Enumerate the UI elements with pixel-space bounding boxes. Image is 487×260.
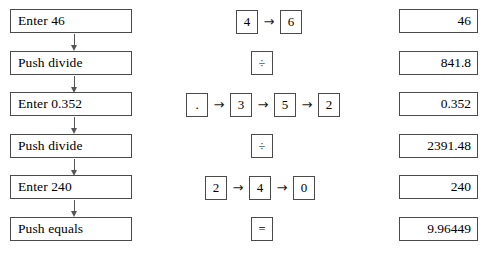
- action-label: Enter 240: [11, 180, 72, 194]
- digit-key-box: 3: [230, 93, 252, 117]
- display-box: 841.8: [399, 51, 478, 75]
- chain-arrow-right-icon: →: [258, 15, 280, 28]
- digit-key-box: 5: [274, 93, 296, 117]
- keystroke-chain: 4→6: [236, 9, 302, 34]
- flow-arrow-down-icon: [70, 159, 79, 176]
- display-box: 240: [399, 175, 478, 199]
- action-box: Push equals: [10, 217, 132, 241]
- digit-key-box: 4: [249, 176, 271, 200]
- flow-arrow-down-icon: [70, 117, 79, 134]
- keystroke-chain: =: [251, 217, 273, 242]
- chain-arrow-right-icon: →: [227, 181, 249, 194]
- display-box: 9.96449: [399, 217, 478, 241]
- keystroke-chain: 2→4→0: [205, 175, 315, 200]
- digit-key-box: 6: [280, 10, 302, 34]
- chain-arrow-right-icon: →: [252, 98, 274, 111]
- action-label: Enter 46: [11, 14, 65, 28]
- display-value: 9.96449: [427, 222, 477, 236]
- digit-key-box: 2: [318, 93, 340, 117]
- chain-arrow-right-icon: →: [208, 98, 230, 111]
- operator-key-box: =: [251, 217, 273, 241]
- digit-key-box: 2: [205, 176, 227, 200]
- operator-key-box: ÷: [251, 134, 273, 158]
- operator-key-box: ÷: [251, 51, 273, 75]
- keystroke-chain: ÷: [251, 134, 273, 159]
- display-value: 841.8: [441, 56, 477, 70]
- display-value: 2391.48: [427, 139, 477, 153]
- digit-key-box: .: [186, 93, 208, 117]
- display-box: 2391.48: [399, 134, 478, 158]
- calculator-sequence-diagram: Enter 464→646Push divide÷841.8Enter 0.35…: [0, 0, 487, 260]
- flow-arrow-down-icon: [70, 76, 79, 93]
- action-label: Push equals: [11, 222, 83, 236]
- keystroke-chain: .→3→5→2: [186, 92, 340, 117]
- display-value: 240: [451, 180, 477, 194]
- action-label: Push divide: [11, 139, 82, 153]
- action-box: Enter 0.352: [10, 92, 132, 116]
- action-box: Push divide: [10, 51, 132, 75]
- chain-arrow-right-icon: →: [271, 181, 293, 194]
- chain-arrow-right-icon: →: [296, 98, 318, 111]
- action-box: Enter 240: [10, 175, 132, 199]
- action-label: Enter 0.352: [11, 97, 82, 111]
- display-box: 0.352: [399, 92, 478, 116]
- digit-key-box: 0: [293, 176, 315, 200]
- display-box: 46: [399, 9, 478, 33]
- flow-arrow-down-icon: [70, 34, 79, 51]
- display-value: 46: [458, 14, 478, 28]
- flow-arrow-down-icon: [70, 200, 79, 217]
- display-value: 0.352: [441, 97, 477, 111]
- digit-key-box: 4: [236, 10, 258, 34]
- action-box: Push divide: [10, 134, 132, 158]
- action-label: Push divide: [11, 56, 82, 70]
- action-box: Enter 46: [10, 9, 132, 33]
- keystroke-chain: ÷: [251, 51, 273, 76]
